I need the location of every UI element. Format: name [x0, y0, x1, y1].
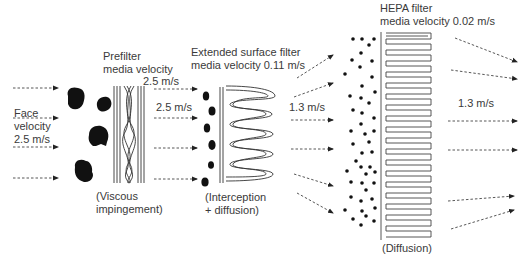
prefilter	[114, 86, 144, 183]
prefilter-mech-line2: impingement)	[96, 203, 163, 216]
hepa-filter	[381, 32, 431, 240]
prefilter-title-line1: Prefilter	[103, 50, 173, 63]
face-label-line2: velocity	[14, 120, 51, 133]
face-label-line3: 2.5 m/s	[14, 133, 51, 146]
extended-title-line2: media velocity 0.11 m/s	[191, 59, 305, 72]
hepa-title-line2: media velocity 0.02 m/s	[380, 15, 495, 28]
small-particles	[343, 37, 377, 227]
mid-velocity-label: 1.3 m/s	[289, 101, 325, 114]
large-particles	[68, 87, 112, 182]
face-velocity-label: Face velocity 2.5 m/s	[14, 107, 51, 146]
out-velocity-label: 1.3 m/s	[458, 97, 494, 110]
extended-mech-line2: + diffusion)	[205, 204, 266, 217]
medium-particles	[201, 92, 215, 187]
prefilter-mechanism: (Viscous impingement)	[96, 190, 163, 216]
prefilter-mech-line1: (Viscous	[96, 190, 163, 203]
extended-mechanism: (Interception + diffusion)	[205, 191, 266, 217]
hepa-title-line1: HEPA filter	[380, 2, 495, 15]
extended-surface-filter	[220, 86, 275, 183]
extended-title-line1: Extended surface filter	[191, 46, 305, 59]
output-arrows	[448, 38, 517, 229]
prefilter-mid-velocity: 2.5 m/s	[156, 101, 192, 114]
hepa-filter-title: HEPA filter media velocity 0.02 m/s	[380, 2, 495, 28]
prefilter-velocity: 2.5 m/s	[143, 75, 179, 88]
hepa-mechanism: (Diffusion)	[382, 242, 432, 255]
prefilter-title: Prefilter media velocity	[103, 50, 173, 76]
mid-velocity-arrows	[291, 55, 333, 213]
face-label-line1: Face	[14, 107, 51, 120]
extended-filter-title: Extended surface filter media velocity 0…	[191, 46, 305, 72]
extended-mech-line1: (Interception	[205, 191, 266, 204]
filtration-diagram	[0, 0, 531, 261]
